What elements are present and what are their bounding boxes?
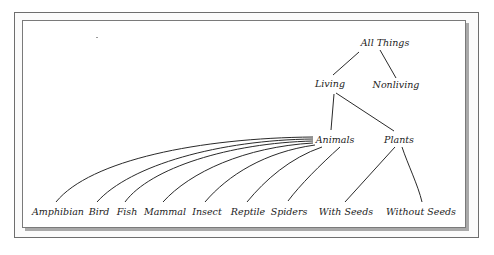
leaf-reptile: Reptile: [230, 206, 266, 217]
node-all-things: All Things: [360, 37, 410, 48]
leaf-fish: Fish: [116, 206, 138, 217]
leaf-without-seeds: Without Seeds: [386, 206, 456, 217]
leaf-spiders: Spiders: [271, 206, 308, 217]
edge-living-animals: [331, 94, 334, 130]
node-nonliving: Nonliving: [372, 79, 420, 90]
edge-allthings-living: [333, 52, 359, 75]
leaf-amphibian: Amphibian: [31, 206, 84, 217]
edge-living-plants: [336, 93, 394, 131]
leaf-with-seeds: With Seeds: [319, 206, 373, 217]
edge-plants-withoutseeds: [402, 147, 422, 202]
leaf-bird: Bird: [88, 206, 110, 217]
edge-animals-fish: [125, 141, 313, 202]
node-living: Living: [314, 78, 345, 89]
edge-allthings-nonliving: [380, 50, 396, 78]
edge-plants-withseeds: [345, 147, 395, 202]
node-animals: Animals: [315, 134, 355, 145]
edge-animals-spiders: [288, 147, 340, 201]
leaf-insect: Insect: [191, 206, 222, 217]
leaf-mammal: Mammal: [143, 206, 186, 217]
tree-diagram: All Things Living Nonliving Animals Plan…: [0, 0, 494, 255]
edge-animals-amphibian: [56, 137, 313, 202]
node-plants: Plants: [383, 134, 414, 145]
edge-animals-insect: [205, 145, 315, 202]
